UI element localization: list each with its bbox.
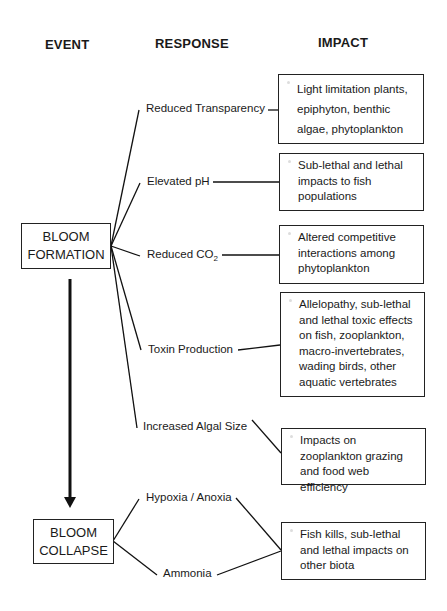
response-toxin-production: Toxin Production [148,343,233,355]
bullet-icon [289,299,292,302]
connector-formation-toxin [111,246,141,350]
impact-zooplankton-grazing-text: Impacts on zooplankton grazing and food … [300,434,403,493]
header-impact: IMPACT [318,35,368,50]
connector-algal-size-impact [252,420,281,453]
impact-toxic-effects-text: Allelopathy, sub-lethal and lethal toxic… [299,298,413,388]
impact-toxic-effects: Allelopathy, sub-lethal and lethal toxic… [280,292,425,397]
response-increased-algal-size: Increased Algal Size [143,420,247,432]
response-reduced-co2: Reduced CO2 [147,248,218,263]
event-bloom-collapse-line1: BLOOM [34,524,113,542]
bullet-icon [288,232,291,235]
impact-light-limitation: Light limitation plants, epiphyton, bent… [278,74,424,144]
response-ammonia: Ammonia [163,567,212,579]
connector-formation-ph [111,183,140,246]
arrow-head-icon [64,497,76,508]
header-response: RESPONSE [155,36,229,51]
impact-fish-populations: Sub-lethal and lethal impacts to fish po… [279,153,424,211]
impact-fish-kills-text: Fish kills, sub-lethal and lethal impact… [300,528,409,571]
event-bloom-formation-line1: BLOOM [22,228,110,246]
connector-collapse-hypoxia [113,499,139,541]
bullet-icon [288,160,291,163]
event-bloom-collapse: BLOOM COLLAPSE [33,519,114,564]
header-event: EVENT [45,37,89,52]
connector-hypoxia-impact [236,498,281,550]
response-elevated-ph: Elevated pH [147,175,210,187]
impact-zooplankton-grazing: Impacts on zooplankton grazing and food … [281,428,426,485]
bullet-icon [290,529,293,532]
impact-light-limitation-text: Light limitation plants, epiphyton, bent… [297,83,408,135]
impact-fish-populations-text: Sub-lethal and lethal impacts to fish po… [298,159,403,202]
connector-toxin-impact [238,345,280,350]
impact-competitive-interactions-text: Altered competitive interactions among p… [298,231,396,274]
response-hypoxia-anoxia: Hypoxia / Anoxia [146,491,232,503]
bullet-icon [290,435,293,438]
event-bloom-formation: BLOOM FORMATION [21,223,111,269]
response-reduced-co2-text: Reduced CO [147,248,213,260]
connector-formation-co2 [111,246,140,256]
event-bloom-formation-line2: FORMATION [22,246,110,264]
connector-formation-transparency [111,110,139,246]
impact-fish-kills: Fish kills, sub-lethal and lethal impact… [281,522,426,580]
connector-collapse-ammonia [113,541,157,575]
connector-ammonia-impact [217,551,281,575]
response-reduced-co2-subscript: 2 [213,254,217,263]
response-reduced-transparency: Reduced Transparency [146,102,265,114]
impact-competitive-interactions: Altered competitive interactions among p… [279,225,424,284]
connector-formation-algal-size [111,246,137,428]
bullet-icon [287,81,290,84]
event-bloom-collapse-line2: COLLAPSE [34,542,113,560]
